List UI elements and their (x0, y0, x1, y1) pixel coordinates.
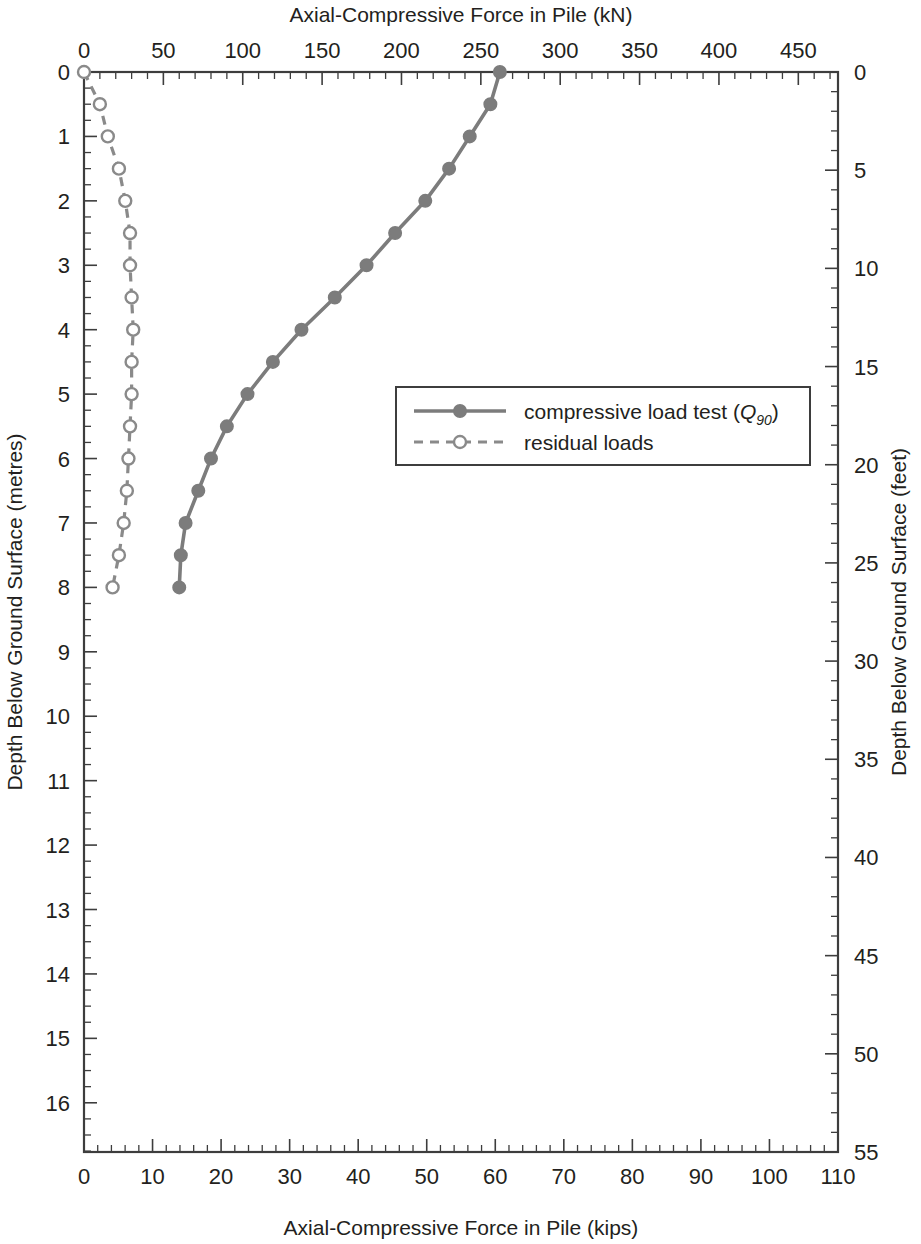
left-axis-tick-label: 15 (46, 1026, 70, 1051)
top-axis-tick-label: 400 (701, 38, 738, 63)
data-point-marker (113, 163, 125, 175)
legend-swatch-marker (454, 405, 466, 417)
data-point-marker (107, 581, 119, 593)
data-point-marker (126, 356, 138, 368)
data-point-marker (94, 98, 106, 110)
right-axis-tick-label: 20 (854, 453, 878, 478)
data-point-marker (205, 452, 217, 464)
data-point-marker (78, 66, 90, 78)
right-axis-tick-label: 10 (854, 256, 878, 281)
right-axis-tick-label: 0 (854, 60, 866, 85)
data-point-marker (102, 130, 114, 142)
left-axis-tick-label: 14 (46, 962, 70, 987)
left-axis-tick-label: 8 (58, 575, 70, 600)
top-axis-tick-label: 200 (383, 38, 420, 63)
bottom-axis-tick-label: 60 (483, 1164, 507, 1189)
data-point-marker (192, 485, 204, 497)
data-point-marker (419, 195, 431, 207)
top-axis-tick-label: 0 (78, 38, 90, 63)
left-axis-tick-label: 0 (58, 60, 70, 85)
bottom-axis-tick-label: 0 (78, 1164, 90, 1189)
right-axis-tick-label: 25 (854, 551, 878, 576)
data-point-marker (173, 581, 185, 593)
bottom-axis-tick-label: 50 (414, 1164, 438, 1189)
right-axis-tick-label: 15 (854, 355, 878, 380)
data-point-marker (124, 227, 136, 239)
bottom-axis-title: Axial-Compressive Force in Pile (kips) (284, 1216, 639, 1239)
left-axis-tick-label: 10 (46, 704, 70, 729)
chart-figure: 0501001502002503003504004500102030405060… (0, 0, 921, 1244)
left-axis-tick-label: 7 (58, 511, 70, 536)
chart-legend: compressive load test (Q90)residual load… (396, 387, 810, 465)
data-point-marker (122, 453, 134, 465)
bottom-axis-tick-label: 70 (552, 1164, 576, 1189)
data-point-marker (127, 324, 139, 336)
left-axis-tick-label: 3 (58, 253, 70, 278)
bottom-axis-tick-label: 10 (140, 1164, 164, 1189)
data-point-marker (126, 388, 138, 400)
right-axis-tick-label: 40 (854, 845, 878, 870)
top-axis-tick-label: 350 (621, 38, 658, 63)
left-axis-tick-label: 5 (58, 382, 70, 407)
data-point-marker (267, 356, 279, 368)
bottom-axis-tick-label: 40 (346, 1164, 370, 1189)
left-axis-tick-label: 11 (47, 769, 70, 794)
legend-label-symbol: Q (740, 400, 756, 423)
bottom-axis-tick-label: 110 (820, 1164, 855, 1189)
right-axis-title: Depth Below Ground Surface (feet) (887, 448, 910, 776)
data-point-marker (175, 549, 187, 561)
top-axis-tick-label: 450 (780, 38, 817, 63)
data-point-marker (295, 324, 307, 336)
legend-label-text: compressive load test ( (524, 400, 740, 423)
right-axis-tick-label: 50 (854, 1042, 878, 1067)
data-point-marker (124, 259, 136, 271)
top-axis-tick-label: 300 (542, 38, 579, 63)
data-point-marker (329, 291, 341, 303)
top-axis-tick-label: 250 (462, 38, 499, 63)
left-axis-tick-label: 2 (58, 189, 70, 214)
top-axis-title: Axial-Compressive Force in Pile (kN) (289, 3, 632, 26)
data-point-marker (118, 517, 130, 529)
legend-label-tail: ) (772, 400, 779, 423)
bottom-axis-tick-label: 20 (209, 1164, 233, 1189)
left-axis-tick-label: 4 (58, 318, 70, 343)
left-axis-tick-label: 6 (58, 447, 70, 472)
legend-swatch-marker (454, 436, 466, 448)
left-axis-tick-label: 13 (46, 898, 70, 923)
data-point-marker (121, 485, 133, 497)
top-axis-tick-label: 150 (304, 38, 341, 63)
bottom-axis-tick-label: 30 (277, 1164, 301, 1189)
data-point-marker (464, 130, 476, 142)
data-point-marker (443, 162, 455, 174)
left-axis-tick-label: 9 (58, 640, 70, 665)
data-point-marker (494, 66, 506, 78)
right-axis-tick-label: 35 (854, 747, 878, 772)
left-axis-tick-label: 1 (58, 124, 70, 149)
top-axis-tick-label: 50 (151, 38, 175, 63)
data-point-marker (221, 420, 233, 432)
data-point-marker (126, 291, 138, 303)
series-compressive-load-test (173, 66, 506, 594)
legend-label: residual loads (524, 431, 654, 454)
right-axis-tick-label: 5 (854, 158, 866, 183)
data-point-marker (119, 195, 131, 207)
data-point-marker (124, 420, 136, 432)
series-line (179, 72, 500, 587)
data-point-marker (484, 98, 496, 110)
left-axis-tick-label: 16 (46, 1091, 70, 1116)
legend-label-subscript: 90 (756, 412, 772, 428)
axis-tick-labels: 0501001502002503003504004500102030405060… (46, 38, 879, 1189)
depth-vs-axial-force-chart: 0501001502002503003504004500102030405060… (0, 0, 921, 1244)
bottom-axis-tick-label: 100 (751, 1164, 788, 1189)
data-point-marker (113, 549, 125, 561)
plot-frame (84, 72, 838, 1152)
left-axis-title: Depth Below Ground Surface (metres) (3, 433, 26, 790)
right-axis-tick-label: 30 (854, 649, 878, 674)
bottom-axis-tick-label: 80 (620, 1164, 644, 1189)
right-axis-tick-label: 45 (854, 944, 878, 969)
bottom-axis-tick-label: 90 (689, 1164, 713, 1189)
data-series-layer (78, 66, 506, 594)
right-axis-tick-label: 55 (854, 1140, 878, 1165)
axis-tickmarks (84, 72, 838, 1152)
data-point-marker (179, 517, 191, 529)
